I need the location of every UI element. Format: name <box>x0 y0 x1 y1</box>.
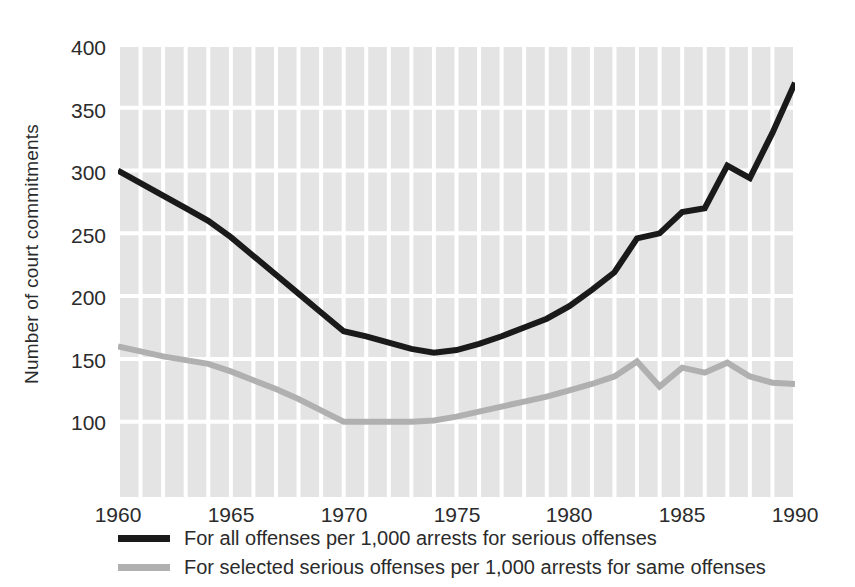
legend-swatch-gray-line-icon <box>118 564 170 571</box>
vertical-gridlines <box>118 45 795 497</box>
y-axis-tick-labels: 400 350 300 250 200 150 100 <box>42 0 106 497</box>
legend-swatch-black-line-icon <box>118 535 170 542</box>
legend-label-all-offenses: For all offenses per 1,000 arrests for s… <box>184 527 657 550</box>
y-axis-title: Number of court commitments <box>21 54 43 454</box>
y-tick-400: 400 <box>46 37 106 58</box>
legend-label-selected-offenses: For selected serious offenses per 1,000 … <box>184 556 766 579</box>
legend-item-all-offenses: For all offenses per 1,000 arrests for s… <box>118 524 855 553</box>
plot-canvas <box>118 45 795 497</box>
plot-area <box>118 45 795 497</box>
y-tick-350: 350 <box>46 100 106 121</box>
y-tick-100: 100 <box>46 412 106 433</box>
y-tick-200: 200 <box>46 287 106 308</box>
y-tick-150: 150 <box>46 350 106 371</box>
line-chart: Number of court commitments 400 350 300 … <box>0 0 855 587</box>
legend-item-selected-offenses: For selected serious offenses per 1,000 … <box>118 553 855 582</box>
y-tick-300: 300 <box>46 162 106 183</box>
chart-legend: For all offenses per 1,000 arrests for s… <box>118 524 855 582</box>
y-tick-250: 250 <box>46 225 106 246</box>
